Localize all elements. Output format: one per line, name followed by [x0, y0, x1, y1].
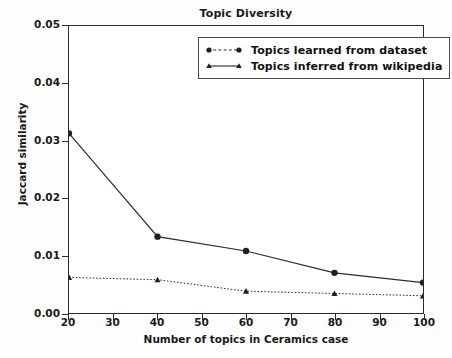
- data-point-marker: [69, 274, 72, 280]
- y-tick-label: 0.03: [0, 134, 60, 146]
- chart-figure: Topic Diversity Jaccard similarity Numbe…: [0, 0, 452, 358]
- y-tick-label: 0.04: [0, 76, 60, 88]
- y-tick-label: 0.00: [0, 307, 60, 319]
- x-tick-mark: [68, 314, 69, 320]
- x-axis-label: Number of topics in Ceramics case: [68, 333, 424, 345]
- y-tick-label: 0.05: [0, 18, 60, 30]
- x-tick-mark: [291, 314, 292, 320]
- x-tick-mark: [246, 314, 247, 320]
- chart-title: Topic Diversity: [68, 7, 424, 20]
- legend-sample-circle-line: [204, 43, 244, 57]
- legend-sample-triangle-line: [204, 59, 244, 73]
- data-point-marker: [154, 233, 160, 239]
- x-tick-mark: [157, 314, 158, 320]
- data-point-marker: [243, 248, 249, 254]
- legend-label-dataset: Topics learned from dataset: [251, 44, 427, 57]
- legend-item-dataset[interactable]: Topics learned from dataset: [204, 42, 442, 58]
- y-tick-label: 0.01: [0, 249, 60, 261]
- data-point-marker: [331, 270, 337, 276]
- chart-legend[interactable]: Topics learned from dataset Topics infer…: [198, 37, 450, 79]
- y-tick-label: 0.02: [0, 191, 60, 203]
- x-tick-mark: [113, 314, 114, 320]
- data-point-marker: [69, 130, 72, 136]
- series-line-0: [69, 133, 423, 282]
- x-tick-mark: [335, 314, 336, 320]
- x-tick-mark: [424, 314, 425, 320]
- legend-label-wikipedia: Topics inferred from wikipedia: [251, 60, 442, 73]
- x-tick-mark: [380, 314, 381, 320]
- data-point-marker: [420, 279, 423, 285]
- data-point-marker: [154, 277, 160, 283]
- x-tick-mark: [202, 314, 203, 320]
- legend-item-wikipedia[interactable]: Topics inferred from wikipedia: [204, 58, 442, 74]
